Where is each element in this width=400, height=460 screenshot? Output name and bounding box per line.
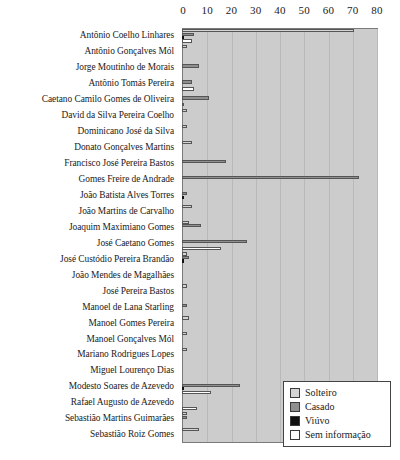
x-tick-label-10: 10 [202,4,213,16]
bar-casado [182,160,226,163]
category-label: João Batista Alves Torres [0,191,178,200]
category-label: Joaquim Maximiano Gomes [0,223,178,232]
bar-sem [182,391,211,394]
bar-sem [182,103,184,106]
chart-row: Jorge Moutinho de Morais [0,60,400,76]
legend-label: Casado [305,402,334,412]
x-tick-label-30: 30 [250,4,261,16]
chart-row: Caetano Camilo Gomes de Oliveira [0,92,400,108]
x-tick-label-40: 40 [274,4,285,16]
bar-group [182,108,378,124]
chart-row: Manoel de Lana Starling [0,299,400,315]
bar-sem [182,87,194,90]
category-label: Manoel Gomes Pereira [0,319,178,328]
bar-group [182,347,378,363]
bar-group [182,220,378,236]
bar-group [182,140,378,156]
legend-label: Viúvo [305,416,329,426]
category-label: Antônio Gonçalves Mól [0,47,178,56]
chart-row: João Batista Alves Torres [0,188,400,204]
bar-group [182,92,378,108]
bar-group [182,172,378,188]
legend-item-solteiro[interactable]: Solteiro [290,386,384,400]
x-tick-label-50: 50 [299,4,310,16]
category-label: Manoel Gonçalves Mól [0,335,178,344]
legend-item-casado[interactable]: Casado [290,400,384,414]
category-label: Rafael Augusto de Azevedo [0,398,178,407]
chart-row: Antônio Coelho Linhares [0,28,400,44]
chart-row: Antônio Gonçalves Mól [0,44,400,60]
category-label: Gomes Freire de Andrade [0,175,178,184]
bar-group [182,299,378,315]
bar-group [182,331,378,347]
x-tick-label-80: 80 [371,4,382,16]
bar-group [182,60,378,76]
category-label: Jorge Moutinho de Morais [0,63,178,72]
bar-solteiro [182,332,187,335]
category-label: Antônio Tomás Pereira [0,79,178,88]
bar-solteiro [182,141,192,144]
category-label: Donato Gonçalves Martins [0,143,178,152]
category-label: Antônio Coelho Linhares [0,31,178,40]
bar-solteiro [182,428,199,431]
bar-solteiro [182,205,192,208]
category-label: José Caetano Gomes [0,239,178,248]
chart-row: Miguel Lourenço Dias [0,363,400,379]
bar-casado [182,80,192,83]
bar-solteiro [182,284,187,287]
bar-casado [182,224,201,227]
x-tick-label-20: 20 [226,4,237,16]
bar-group [182,28,378,44]
bar-group [182,267,378,283]
chart-row: Donato Gonçalves Martins [0,140,400,156]
x-axis: 01020304050607080 [0,0,400,22]
category-label: Miguel Lourenço Dias [0,366,178,375]
chart-row: Mariano Rodrigues Lopes [0,347,400,363]
bar-group [182,251,378,267]
bar-group [182,156,378,172]
bar-group [182,283,378,299]
chart-row: Dominicano José da Silva [0,124,400,140]
bar-casado [182,384,240,387]
bar-sem [182,247,221,250]
bar-group [182,363,378,379]
bar-sem [182,39,192,42]
category-label: Francisco José Pereira Bastos [0,159,178,168]
category-label: João Mendes de Magalhães [0,271,178,280]
bar-solteiro [182,348,187,351]
bar-solteiro [182,45,187,48]
chart-row: João Mendes de Magalhães [0,267,400,283]
chart-row: José Pereira Bastos [0,283,400,299]
legend-item-sem[interactable]: Sem informação [290,428,384,442]
category-label: Manoel de Lana Starling [0,303,178,312]
viuvo-swatch-icon [290,416,300,426]
x-tick-label-0: 0 [180,4,186,16]
chart-row: David da Silva Pereira Coelho [0,108,400,124]
category-label: David da Silva Pereira Coelho [0,111,178,120]
chart-row: Joaquim Maximiano Gomes [0,220,400,236]
casado-swatch-icon [290,402,300,412]
bar-sem [182,407,197,410]
bar-casado [182,416,187,419]
bar-casado [182,96,209,99]
bar-viuvo [182,196,184,199]
legend-item-viuvo[interactable]: Viúvo [290,414,384,428]
category-label: Caetano Camilo Gomes de Oliveira [0,95,178,104]
bar-group [182,236,378,252]
bar-solteiro [182,109,187,112]
bar-viuvo [182,259,184,262]
bar-solteiro [182,125,187,128]
x-tick-label-60: 60 [323,4,334,16]
category-label: Modesto Soares de Azevedo [0,382,178,391]
chart-row: João Martins de Carvalho [0,204,400,220]
bar-casado [182,64,199,67]
category-label: José Custódio Pereira Brandão [0,255,178,264]
chart-row: Manoel Gomes Pereira [0,315,400,331]
bar-casado [182,176,359,179]
legend: SolteiroCasadoViúvoSem informação [283,381,391,447]
bar-solteiro [182,316,189,319]
category-label: Dominicano José da Silva [0,127,178,136]
bar-casado [182,304,187,307]
legend-label: Sem informação [305,430,371,440]
bar-group [182,204,378,220]
